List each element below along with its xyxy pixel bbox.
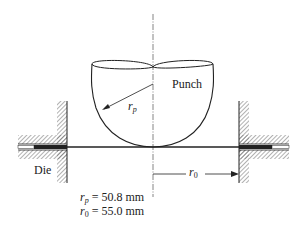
parameter-r0: r0 = 55.0 mm: [80, 205, 144, 219]
blank-radius-label: r0: [189, 166, 198, 180]
punch-die-diagram: [0, 0, 302, 225]
punch-radius-label: rp: [128, 100, 137, 114]
right-die: [239, 101, 289, 183]
punch: [91, 60, 213, 147]
punch-label: Punch: [172, 78, 202, 90]
parameter-rp: rp = 50.8 mm: [80, 191, 144, 205]
die-label: Die: [34, 164, 51, 176]
